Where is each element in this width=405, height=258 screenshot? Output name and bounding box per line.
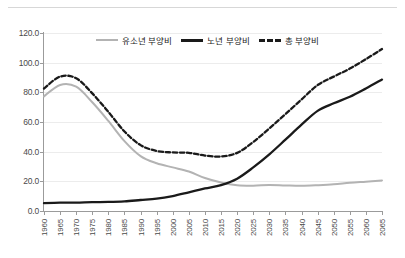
series-line-youth: [44, 84, 382, 186]
series-line-total: [44, 49, 382, 157]
chart-screenshot: 120.0100.080.060.040.020.00.0 1960196519…: [0, 0, 405, 258]
series-lines: [0, 0, 405, 258]
